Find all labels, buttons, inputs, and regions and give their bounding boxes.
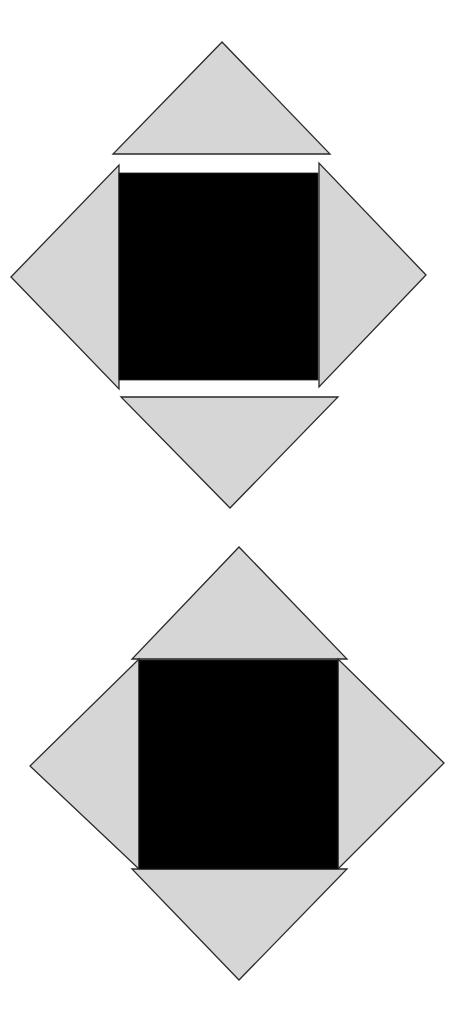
triangle-left [30, 659, 139, 869]
figure-assembled [30, 547, 444, 980]
triangle-top [132, 547, 347, 659]
figure-exploded [11, 42, 426, 508]
black-square [119, 173, 318, 380]
triangle-top [113, 42, 330, 154]
triangle-bottom [132, 869, 347, 980]
triangle-left [11, 165, 119, 389]
triangle-bottom [121, 397, 338, 508]
black-square [139, 660, 338, 869]
triangle-right [338, 659, 444, 869]
triangle-right [319, 163, 426, 387]
diagram-canvas [0, 0, 474, 1025]
